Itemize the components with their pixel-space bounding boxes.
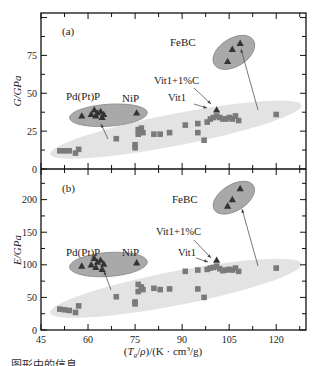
data-point-square: [195, 130, 201, 136]
x-tick-label: 105: [222, 334, 237, 345]
annotation-vit1-a: Vit1: [168, 92, 186, 103]
annotation-pdptp-b: Pd(Pt)P: [66, 246, 100, 259]
data-point-square: [182, 269, 188, 275]
data-point-square: [195, 267, 201, 273]
data-point-square: [140, 130, 146, 136]
y-axis-label-b: E/GPa: [11, 235, 23, 266]
annotation-pdptp-a: Pd(Pt)P: [66, 90, 100, 103]
data-point-square: [273, 265, 279, 271]
y-axis-label-a: G/GPa: [11, 75, 23, 107]
annotation-febc-b: FeBC: [172, 193, 198, 205]
y-tick-label: 200: [22, 194, 37, 205]
y-tick-label: 50: [27, 292, 37, 303]
arrow-to-febc-b-head: [241, 209, 244, 213]
data-point-square: [66, 308, 72, 314]
data-point-square: [140, 287, 146, 293]
panel-label-a: (a): [62, 25, 75, 38]
x-tick-label: 120: [269, 334, 284, 345]
annotation-vit1c-b: Vit1+1%C: [156, 226, 201, 237]
data-point-square: [236, 118, 242, 124]
x-tick-label: 60: [83, 334, 93, 345]
arrow-to-febc-b: [242, 209, 258, 266]
data-point-square: [236, 269, 242, 275]
data-point-square: [151, 285, 157, 291]
data-point-square: [151, 131, 157, 137]
y-tick-label: 0: [32, 164, 37, 175]
data-point-square: [167, 286, 173, 292]
data-point-square: [113, 136, 119, 142]
y-tick-label: 100: [22, 259, 37, 270]
data-point-square: [157, 131, 163, 137]
data-point-square: [195, 286, 201, 292]
chart-figure: 025507505010015020045607590105120 (a) (b…: [0, 0, 316, 366]
annotation-vit1c-a: Vit1+1%C: [154, 75, 199, 86]
data-point-square: [182, 122, 188, 128]
data-point-square: [157, 287, 163, 293]
x-tick-label: 90: [177, 334, 187, 345]
y-tick-label: 75: [27, 50, 37, 61]
annotation-nip-b: NiP: [122, 246, 139, 258]
data-point-square: [201, 137, 207, 143]
data-point-square: [76, 303, 82, 309]
arrow-vit1c-b: [194, 240, 211, 258]
annotation-vit1-b: Vit1: [178, 247, 196, 258]
panel-label-b: (b): [62, 182, 75, 195]
data-point-square: [113, 294, 119, 300]
data-point-square: [201, 295, 207, 301]
x-tick-label: 45: [36, 334, 46, 345]
y-tick-label: 50: [27, 88, 37, 99]
figure-caption-fragment: …图形中的信息: [0, 356, 316, 366]
data-point-square: [273, 112, 279, 118]
annotation-febc-a: FeBC: [170, 36, 196, 48]
data-point-square: [167, 130, 173, 136]
data-point-square: [73, 310, 79, 316]
x-tick-label: 75: [130, 334, 140, 345]
data-point-square: [132, 301, 138, 307]
data-point-square: [76, 147, 82, 153]
y-tick-label: 25: [27, 126, 37, 137]
annotation-nip-a: NiP: [122, 92, 139, 104]
data-point-square: [132, 145, 138, 151]
arrow-vit1-a-head: [203, 105, 207, 108]
arrow-vit1-b-head: [204, 259, 208, 262]
ellipse-febc: [207, 174, 260, 220]
data-point-triangle: [213, 256, 220, 262]
data-point-square: [66, 148, 72, 154]
y-tick-label: 150: [22, 227, 37, 238]
arrow-to-febc-a: [241, 49, 258, 110]
ellipse-febc: [207, 28, 261, 76]
data-point-square: [195, 121, 201, 127]
